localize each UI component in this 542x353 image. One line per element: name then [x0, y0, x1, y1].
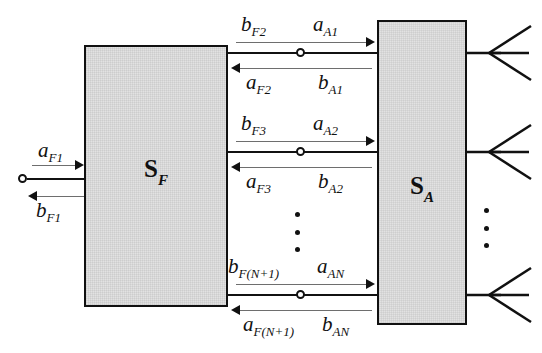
antenna-element-n	[467, 264, 537, 326]
ellipsis-dot	[484, 226, 489, 231]
input-port-terminal	[18, 174, 27, 183]
antennas-ellipsis	[483, 208, 489, 248]
row-3-bottom-right-sub: AN	[333, 324, 350, 339]
row-1-top-right-label: aA1	[313, 14, 338, 35]
row-2-forward-arrowhead	[366, 136, 375, 146]
row-1-junction-node	[296, 48, 305, 57]
antenna-array-block: SA	[377, 20, 467, 325]
input-reflected-label: bF1	[36, 200, 61, 221]
input-reflected-arrow-line	[36, 196, 84, 197]
row-3-forward-arrow-line	[236, 284, 370, 285]
row-2-bottom-right-label: bA2	[318, 171, 343, 192]
row-1-top-left-base: b	[241, 12, 252, 36]
row-3-top-left-sub: F(N+1)	[239, 266, 280, 281]
ellipsis-dot	[295, 212, 300, 217]
row-1-bottom-left-base: a	[246, 70, 257, 94]
row-1-reverse-arrowhead	[231, 63, 240, 73]
ellipsis-dot	[295, 230, 300, 235]
row-3-bottom-right-base: b	[322, 312, 333, 336]
row-3-bottom-left-base: a	[243, 312, 254, 336]
row-2-top-right-label: aA2	[313, 113, 338, 134]
input-incident-label: aF1	[38, 140, 63, 161]
input-incident-arrowhead	[75, 160, 84, 170]
row-1-top-right-base: a	[313, 12, 324, 36]
row-2-bottom-left-label: aF3	[246, 171, 271, 192]
row-2-top-left-label: bF3	[241, 113, 266, 134]
ellipsis-dot	[484, 243, 489, 248]
input-reflected-sub: F1	[47, 210, 61, 225]
input-reflected-base: b	[36, 198, 47, 222]
row-2-top-right-base: a	[313, 111, 324, 135]
antenna-array-label-main: S	[410, 172, 424, 199]
row-1-bottom-left-label: aF2	[246, 72, 271, 93]
row-3-top-right-label: aAN	[317, 256, 344, 277]
row-2-bottom-right-base: b	[318, 169, 329, 193]
row-3-forward-arrowhead	[366, 279, 375, 289]
row-2-bottom-right-sub: A2	[329, 181, 343, 196]
row-1-top-right-sub: A1	[324, 24, 338, 39]
row-3-reverse-arrowhead	[231, 305, 240, 315]
row-2-bottom-left-sub: F3	[257, 181, 271, 196]
row-1-top-left-sub: F2	[252, 24, 266, 39]
row-1-top-left-label: bF2	[241, 14, 266, 35]
row-2-forward-arrow-line	[236, 141, 370, 142]
antenna-element-2	[467, 121, 537, 183]
row-3-top-left-base: b	[228, 254, 239, 278]
ellipsis-dot	[484, 208, 489, 213]
input-incident-base: a	[38, 138, 49, 162]
antenna-element-1	[467, 22, 537, 84]
row-2-bottom-left-base: a	[246, 169, 257, 193]
antenna-array-label: SA	[379, 172, 465, 202]
row-3-junction-node	[296, 290, 305, 299]
row-1-bottom-right-base: b	[318, 70, 329, 94]
ellipsis-dot	[295, 247, 300, 252]
input-incident-sub: F1	[49, 150, 63, 165]
row-2-reverse-arrow-line	[240, 167, 372, 168]
row-3-top-right-sub: AN	[328, 266, 345, 281]
row-2-top-right-sub: A2	[324, 123, 338, 138]
row-2-junction-node	[296, 147, 305, 156]
row-1-bottom-right-sub: A1	[329, 82, 343, 97]
rows-ellipsis	[294, 212, 300, 252]
row-3-reverse-arrow-line	[240, 310, 372, 311]
feed-network-label: SF	[86, 155, 226, 185]
diagram-canvas: SF SA aF1 bF1 bF2 aA1 aF2 bA1	[0, 0, 542, 353]
row-2-top-left-base: b	[241, 111, 252, 135]
feed-network-label-sub: F	[158, 172, 168, 188]
row-3-top-left-label: bF(N+1)	[228, 256, 279, 277]
input-port-wire	[27, 178, 85, 180]
row-3-bottom-right-label: bAN	[322, 314, 349, 335]
row-1-bottom-left-sub: F2	[257, 82, 271, 97]
row-1-reverse-arrow-line	[240, 68, 372, 69]
row-3-top-right-base: a	[317, 254, 328, 278]
feed-network-label-main: S	[144, 155, 158, 182]
feed-network-block: SF	[84, 45, 228, 307]
row-1-forward-arrowhead	[366, 37, 375, 47]
row-1-bottom-right-label: bA1	[318, 72, 343, 93]
row-3-bottom-left-label: aF(N+1)	[243, 314, 294, 335]
row-1-forward-arrow-line	[236, 42, 370, 43]
row-2-reverse-arrowhead	[231, 162, 240, 172]
row-2-top-left-sub: F3	[252, 123, 266, 138]
row-3-bottom-left-sub: F(N+1)	[254, 324, 295, 339]
antenna-array-label-sub: A	[424, 189, 434, 205]
